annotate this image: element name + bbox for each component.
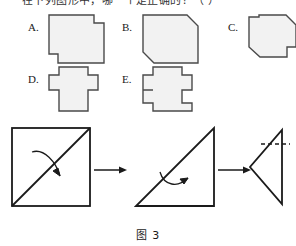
option-c-shape [248,14,296,64]
figure-caption: 图 3 [0,226,296,242]
option-d-label: D. [28,74,39,85]
option-a-label: A. [28,22,39,33]
process-arrow-1-right-arrow [94,164,128,176]
option-e-shape [142,66,194,112]
option-d-shape [48,66,100,112]
folding-process-diagram [0,118,296,222]
question-stem-text: 在下列图形中，哪一个是正确的？（ ） [22,0,220,7]
process-step-2-triangle-second-fold [134,126,216,208]
question-stem: 在下列图形中，哪一个是正确的？（ ） [0,0,296,9]
process-step-1-square-with-diagonal-fold [10,126,92,208]
option-b-label: B. [122,22,132,33]
option-e-label: E. [122,74,131,85]
process-step-3-folded-triangle-with-cut-line [248,126,292,208]
figure-3-root: 在下列图形中，哪一个是正确的？（ ） A. B. C. D. [0,0,296,246]
option-c-label: C. [228,22,238,33]
option-b-shape [142,14,200,64]
process-arrow-2-right-arrow [218,164,252,176]
option-a-shape [48,14,106,64]
